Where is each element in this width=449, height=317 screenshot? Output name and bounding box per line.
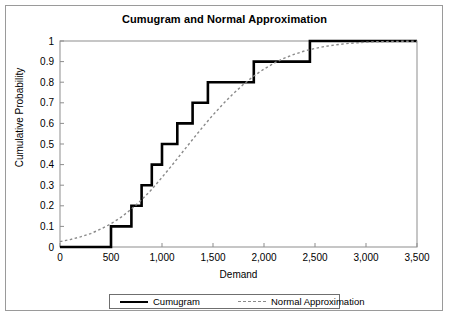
- legend-item-normal-approximation: Normal Approximation: [238, 296, 364, 307]
- x-tick-label: 0: [57, 252, 63, 263]
- plot-border: [60, 41, 417, 247]
- series-cumugram: [60, 41, 417, 247]
- x-axis-label: Demand: [60, 269, 417, 280]
- series-normal-approximation: [60, 41, 417, 241]
- y-tick-label: 0.3: [40, 180, 54, 191]
- legend-label-normal-approximation: Normal Approximation: [271, 296, 364, 307]
- y-tick-label: 0.7: [40, 97, 54, 108]
- y-tick-label: 1: [48, 36, 54, 47]
- plot-area: 05001,0001,5002,0002,5003,0003,50000.10.…: [0, 0, 449, 317]
- y-tick-label: 0.8: [40, 77, 54, 88]
- x-tick-label: 3,500: [404, 252, 429, 263]
- y-tick-label: 0.9: [40, 56, 54, 67]
- y-tick-label: 0: [48, 242, 54, 253]
- y-tick-label: 0.4: [40, 159, 54, 170]
- series-layer: [60, 41, 417, 247]
- legend-swatch-solid-icon: [120, 297, 148, 307]
- x-tick-label: 1,000: [149, 252, 174, 263]
- legend-item-cumugram: Cumugram: [120, 296, 200, 307]
- y-tick-label: 0.1: [40, 221, 54, 232]
- x-tick-label: 500: [103, 252, 120, 263]
- y-tick-label: 0.6: [40, 118, 54, 129]
- y-axis-label: Cumulative Probability: [14, 58, 25, 178]
- legend-label-cumugram: Cumugram: [153, 296, 200, 307]
- y-tick-label: 0.2: [40, 200, 54, 211]
- legend-swatch-dashed-icon: [238, 297, 266, 307]
- x-tick-label: 3,000: [353, 252, 378, 263]
- axis-layer: 05001,0001,5002,0002,5003,0003,50000.10.…: [40, 36, 430, 264]
- x-tick-label: 2,000: [251, 252, 276, 263]
- x-tick-label: 2,500: [302, 252, 327, 263]
- chart-legend: Cumugram Normal Approximation: [109, 294, 340, 309]
- y-tick-label: 0.5: [40, 139, 54, 150]
- x-tick-label: 1,500: [200, 252, 225, 263]
